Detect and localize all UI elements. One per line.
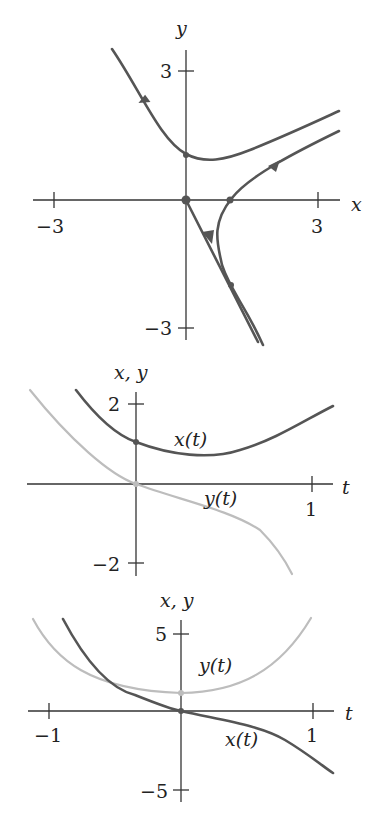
y-curve	[30, 390, 292, 574]
time-series-chart-2: x, y t −1 1 5 −5 y(t) x(t)	[28, 589, 353, 802]
x-curve	[63, 619, 333, 773]
t-tick-label-1: 1	[305, 498, 317, 520]
origin-trajectory	[186, 200, 258, 342]
upper-trajectory	[112, 49, 339, 160]
xy-axis-label: x, y	[160, 589, 194, 611]
x-axis-label: x	[351, 193, 362, 215]
t-axis-label: t	[342, 476, 350, 498]
y-axis-label: y	[175, 17, 187, 39]
y-curve-label: y(t)	[198, 654, 232, 676]
x-curve-label: x(t)	[225, 728, 258, 750]
t-tick-label-neg1: −1	[34, 724, 62, 746]
x0-point	[178, 708, 184, 714]
x-tick-label-3: 3	[311, 215, 323, 237]
t-axis-label: t	[345, 702, 353, 724]
x-tick-label-neg3: −3	[36, 215, 64, 237]
y0-point	[133, 481, 139, 487]
point-1-0	[227, 197, 234, 204]
y-curve	[33, 618, 311, 693]
t-tick-label-1: 1	[306, 724, 318, 746]
x-curve-label: x(t)	[174, 428, 207, 450]
arrow-down-left-icon	[268, 160, 280, 172]
y-tick-label-5: 5	[155, 623, 167, 645]
point-1-neg2	[228, 282, 234, 288]
xy-axis-label: x, y	[114, 361, 148, 383]
y-tick-label-2: 2	[108, 393, 120, 415]
y-tick-label-neg2: −2	[92, 553, 120, 575]
y-tick-label-neg3: −3	[144, 317, 172, 339]
figure: y x −3 3 3 −3 x, y t 1 2 −2 x(t	[0, 0, 377, 836]
point-0-1	[183, 152, 189, 158]
y-tick-label-3: 3	[160, 60, 172, 82]
x0-point	[133, 439, 139, 445]
y-curve-label: y(t)	[203, 487, 237, 509]
y-tick-label-neg5: −5	[140, 780, 168, 802]
origin-point	[182, 196, 191, 205]
phase-plane-chart: y x −3 3 3 −3	[33, 17, 362, 345]
y0-point	[178, 690, 184, 696]
time-series-chart-1: x, y t 1 2 −2 x(t) y(t)	[27, 361, 350, 576]
